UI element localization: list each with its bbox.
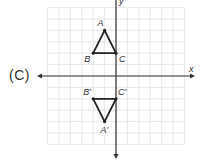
vertex-label: A xyxy=(97,18,104,28)
vertex-point xyxy=(92,97,95,100)
vertex-label: B xyxy=(84,54,90,64)
x-axis-arrow-right-icon xyxy=(190,74,195,79)
vertex-label: A' xyxy=(100,125,109,135)
y-axis-label: y xyxy=(118,0,124,6)
vertex-point xyxy=(103,120,106,123)
triangle-abc: ABC xyxy=(84,18,126,64)
y-axis-arrow-down-icon xyxy=(114,154,119,159)
vertex-label: C' xyxy=(118,87,126,97)
vertex-point xyxy=(114,52,117,55)
vertex-point xyxy=(103,29,106,32)
vertex-point xyxy=(92,52,95,55)
axes: x y xyxy=(37,0,195,159)
vertex-label: B' xyxy=(83,87,91,97)
vertex-label: C xyxy=(119,54,126,64)
x-axis-label: x xyxy=(188,64,194,74)
vertex-point xyxy=(114,97,117,100)
coordinate-plane: x y ABCA'B'C' xyxy=(0,0,204,164)
x-axis-arrow-left-icon xyxy=(37,74,42,79)
